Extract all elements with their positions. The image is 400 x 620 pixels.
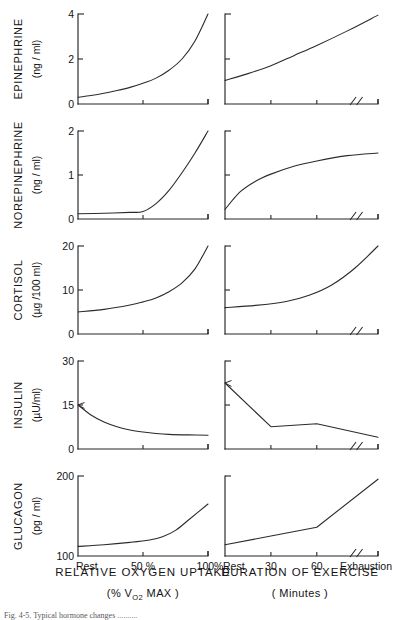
y-tick-label: 30 [62,355,74,367]
y-tick-label: 2 [68,125,74,137]
data-curve-epinephrine-left [78,14,208,97]
series-name-label: GLUCAGON [12,482,24,550]
caption-line: Fig. 4-5. Typical hormone changes ......… [4,611,137,620]
y-tick-label: 20 [62,240,74,252]
panel-insulin-left: 01530INSULIN(µU/ml) [12,355,208,455]
x-axis-title-left: RELATIVE OXYGEN UPTAKE [55,566,230,578]
panel-epinephrine-left: 024EPINEPHRINE(ng / ml) [12,8,208,110]
x-axis-subtitle-right: ( Minutes ) [272,587,328,599]
series-unit-label: (µg /100 ml) [30,262,42,318]
series-name-label: INSULIN [12,381,24,429]
series-unit-label: (pg / ml) [30,497,42,536]
y-tick-label: 4 [68,8,74,20]
y-tick-label: 0 [68,98,74,110]
panel-cortisol-right [225,246,378,335]
panel-cortisol-left: 01020CORTISOL(µg /100 ml) [12,240,208,340]
series-name-label: EPINEPHRINE [12,18,24,99]
data-curve-insulin-left [78,405,208,435]
x-axis-titles: RELATIVE OXYGEN UPTAKE DURATION OF EXERC… [55,566,379,602]
y-tick-label: 1 [68,169,74,181]
data-curve-insulin-right [225,383,378,437]
panel-norepinephrine-right [225,131,378,220]
panel-norepinephrine-left: 012NOREPINEPHRINE(ng / ml) [12,121,208,228]
series-name-label: CORTISOL [12,260,24,321]
vo2-suffix: MAX ) [143,587,179,599]
data-curve-epinephrine-right [225,15,378,80]
data-curve-cortisol-right [225,246,378,308]
panel-insulin-right [225,361,378,450]
series-unit-label: (ng / ml) [30,156,42,195]
y-tick-label: 0 [68,213,74,225]
panel-glucagon-left: 100200Rest50 %100%GLUCAGON(pg / ml) [12,470,223,572]
panels-layer: 024EPINEPHRINE(ng / ml)012NOREPINEPHRINE… [12,8,392,572]
hormone-response-figure: 024EPINEPHRINE(ng / ml)012NOREPINEPHRINE… [0,0,400,620]
panel-glucagon-right: Rest3060Exhaustion [223,476,392,572]
y-tick-label: 0 [68,443,74,455]
y-tick-label: 200 [56,470,74,482]
figure-canvas: 024EPINEPHRINE(ng / ml)012NOREPINEPHRINE… [0,0,400,620]
y-tick-label: 0 [68,328,74,340]
series-unit-label: (µU/ml) [30,388,42,423]
data-curve-cortisol-left [78,246,208,312]
data-curve-norepinephrine-left [78,131,208,214]
y-tick-label: 100 [56,550,74,562]
y-tick-label: 2 [68,53,74,65]
series-name-label: NOREPINEPHRINE [12,121,24,228]
x-axis-title-right: DURATION OF EXERCISE [221,566,379,578]
series-unit-label: (ng / ml) [30,40,42,79]
data-curve-glucagon-right [225,479,378,545]
data-curve-glucagon-left [78,504,208,546]
y-tick-label: 15 [62,399,74,411]
vo2-prefix: (% V [107,587,133,599]
panel-epinephrine-right [225,14,378,105]
figure-caption-clipped: Fig. 4-5. Typical hormone changes ......… [4,611,137,620]
data-curve-norepinephrine-right [225,153,378,209]
x-axis-subtitle-left: (% VO2 MAX ) [107,587,179,602]
y-tick-label: 10 [62,284,74,296]
